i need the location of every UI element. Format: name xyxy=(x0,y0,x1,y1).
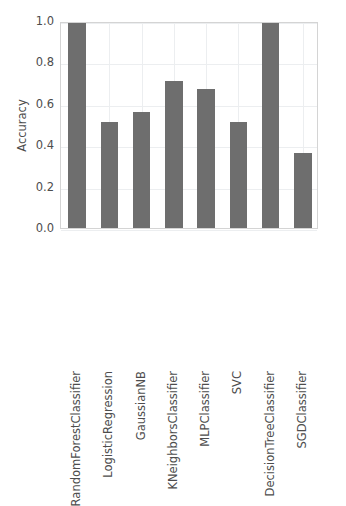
bar-DecisionTreeClassifier xyxy=(262,23,280,228)
x-tick-label: DecisionTreeClassifier xyxy=(265,371,276,496)
x-tick-label: SGDClassifier xyxy=(297,371,308,449)
y-tick-label: 0.6 xyxy=(26,97,54,111)
x-tick-label: MLPClassifier xyxy=(200,371,211,447)
x-tick-label: SVC xyxy=(232,371,243,394)
x-tick-label: GaussianNB xyxy=(136,371,147,440)
y-tick-label: 0.2 xyxy=(26,180,54,194)
bar-RandomForestClassifier xyxy=(68,23,86,228)
bar-LogisticRegression xyxy=(101,122,119,228)
bar-SGDClassifier xyxy=(294,153,312,228)
x-tick-label: KNeighborsClassifier xyxy=(168,371,179,490)
x-tick-label: RandomForestClassifier xyxy=(71,371,82,506)
bar-KNeighborsClassifier xyxy=(165,81,183,228)
bar-GaussianNB xyxy=(133,112,151,228)
x-axis-tick-labels: RandomForestClassifierLogisticRegression… xyxy=(60,229,318,376)
y-tick-label: 1.0 xyxy=(26,14,54,28)
bar-SVC xyxy=(230,122,248,228)
bar-MLPClassifier xyxy=(197,89,215,228)
x-tick-label: LogisticRegression xyxy=(103,371,114,478)
y-tick-label: 0.4 xyxy=(26,138,54,152)
y-tick-label: 0.8 xyxy=(26,55,54,69)
y-tick-label: 0.0 xyxy=(26,221,54,235)
y-axis-tick-labels: 1.00.80.60.40.20.0 xyxy=(26,0,54,376)
plot-area xyxy=(60,22,318,229)
